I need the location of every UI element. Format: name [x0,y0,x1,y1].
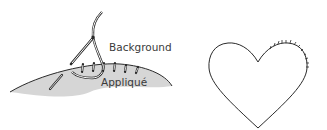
heart-outline-diagram [190,0,327,130]
heart-shape-icon [190,0,327,130]
heart-stitch-ticks [270,40,309,67]
heart-outline [209,43,307,128]
applique-label: Appliqué [101,76,147,88]
applique-stitch-illustration: Background Appliqué [0,0,180,130]
background-label: Background [109,41,172,53]
applique-stitch-diagram: Background Appliqué [0,0,180,130]
